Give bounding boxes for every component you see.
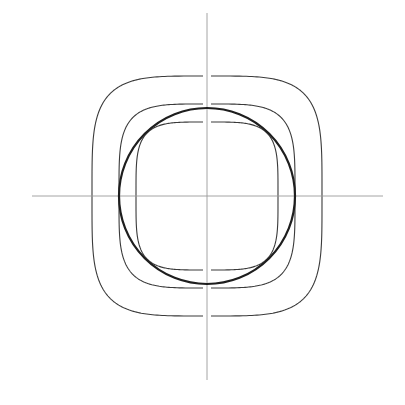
squircle-circle-diagram xyxy=(0,0,405,405)
diagram-canvas xyxy=(0,0,405,405)
